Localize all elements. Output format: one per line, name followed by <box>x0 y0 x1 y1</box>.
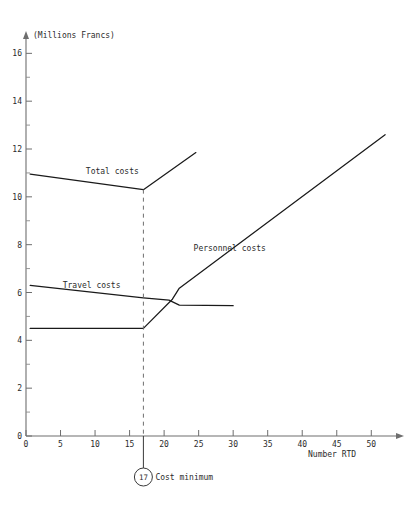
x-tick-label: 15 <box>125 440 135 449</box>
x-tick-label: 10 <box>90 440 100 449</box>
y-tick-label: 4 <box>17 336 22 345</box>
annotation-marker-value: 17 <box>139 473 148 482</box>
series-lines <box>30 135 385 329</box>
x-axis-title: Number RTD <box>308 450 356 459</box>
y-tick-label: 2 <box>17 384 22 393</box>
series-line-1 <box>30 285 233 305</box>
y-axis-ticks: 0246810121416 <box>12 49 32 441</box>
series-inline-labels: Total costsTravel costsPersonnel costs <box>63 167 266 290</box>
y-tick-label: 14 <box>12 97 22 106</box>
x-tick-label: 50 <box>366 440 376 449</box>
y-tick-label: 0 <box>17 432 22 441</box>
series-line-2 <box>30 135 385 329</box>
y-tick-label: 6 <box>17 289 22 298</box>
x-tick-label: 45 <box>332 440 342 449</box>
x-tick-label: 25 <box>194 440 204 449</box>
x-tick-label: 5 <box>58 440 63 449</box>
axis-group <box>23 31 404 439</box>
x-tick-label: 30 <box>228 440 238 449</box>
y-axis-title: (Millions Francs) <box>33 31 115 40</box>
chart-container: 0246810121416 05101520253035404550 (Mill… <box>0 0 417 511</box>
y-axis-arrow-icon <box>23 31 29 39</box>
x-tick-label: 0 <box>24 440 29 449</box>
cost-line-chart: 0246810121416 05101520253035404550 (Mill… <box>0 0 417 511</box>
annotation-caption: Cost minimum <box>155 473 213 482</box>
series-label-0: Total costs <box>86 167 139 176</box>
y-tick-label: 16 <box>12 49 22 58</box>
series-label-2: Personnel costs <box>194 244 266 253</box>
y-tick-label: 8 <box>17 241 22 250</box>
y-tick-label: 12 <box>12 145 22 154</box>
x-tick-label: 40 <box>297 440 307 449</box>
series-label-1: Travel costs <box>63 281 121 290</box>
x-tick-label: 35 <box>263 440 273 449</box>
y-tick-label: 10 <box>12 193 22 202</box>
x-axis-arrow-icon <box>396 433 404 439</box>
x-tick-label: 20 <box>159 440 169 449</box>
x-axis-ticks: 05101520253035404550 <box>24 430 377 449</box>
